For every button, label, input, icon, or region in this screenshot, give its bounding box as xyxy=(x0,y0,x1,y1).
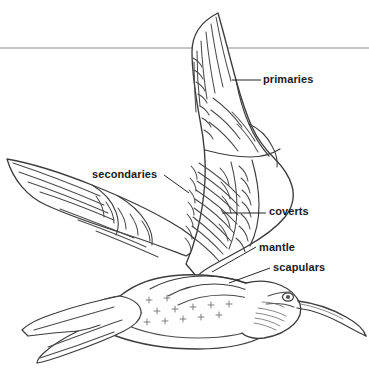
secondary-scallop-2 xyxy=(190,178,196,191)
bird-anatomy-figure: primaries secondaries coverts mantle sca… xyxy=(0,0,369,378)
label-scapulars: scapulars xyxy=(273,261,325,273)
bird-line-drawing xyxy=(0,0,369,378)
bill-lower xyxy=(297,308,366,336)
eye-pupil xyxy=(286,295,290,299)
head-and-bill xyxy=(242,281,366,338)
secondary-scallop-5 xyxy=(187,214,193,227)
secondary-scallop-1 xyxy=(191,166,197,179)
head-outline xyxy=(242,281,301,338)
secondary-scallop-3 xyxy=(189,190,195,203)
leader-line-secondaries xyxy=(164,175,189,193)
secondary-scallop-4 xyxy=(188,202,194,215)
bird-drawing xyxy=(7,13,366,363)
tail xyxy=(22,296,141,363)
label-mantle: mantle xyxy=(259,241,295,253)
tail-outline xyxy=(22,296,141,363)
label-primaries: primaries xyxy=(263,73,313,85)
label-secondaries: secondaries xyxy=(92,168,157,180)
label-coverts: coverts xyxy=(269,205,309,217)
